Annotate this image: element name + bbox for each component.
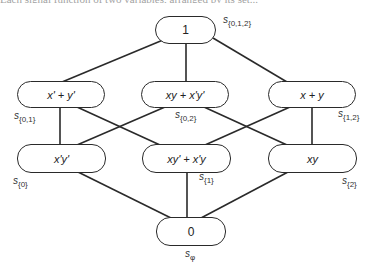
lattice-node-x-prime-y-prime: x'y' — [17, 144, 106, 173]
subset-label-02: s{0,2} — [175, 109, 196, 123]
node-text: xy — [307, 153, 318, 165]
lattice-node-x-plus-y: x + y — [268, 81, 356, 108]
subset-label-empty: sφ — [185, 248, 195, 262]
lattice-node-xy-plus-x-prime-y-prime: xy + x'y' — [141, 81, 229, 108]
node-text: 1 — [182, 23, 189, 37]
edge-top-m-right — [213, 38, 287, 82]
edge-top-m-left — [62, 40, 163, 82]
edge-b-left-bottom — [78, 172, 171, 218]
node-text: 0 — [188, 225, 195, 239]
subset-label-01: s{0,1} — [14, 110, 35, 124]
node-text: xy + x'y' — [166, 89, 205, 101]
node-text: x' + y' — [47, 89, 75, 101]
node-text: xy' + x'y — [167, 153, 206, 165]
node-text: x + y — [300, 89, 324, 101]
subset-label-2: s{2} — [342, 175, 357, 189]
subset-label-012: s{0,1,2} — [223, 14, 251, 28]
lattice-node-xy: xy — [268, 144, 357, 173]
subset-label-12: s{1,2} — [338, 108, 359, 122]
lattice-node-zero: 0 — [156, 217, 226, 246]
subset-label-0: s{0} — [13, 175, 28, 189]
node-text: x'y' — [54, 153, 69, 165]
subset-label-1: s{1} — [199, 171, 214, 185]
lattice-node-x-prime-plus-y-prime: x' + y' — [17, 81, 105, 108]
edge-b-right-bottom — [201, 172, 288, 218]
lattice-node-one: 1 — [155, 16, 216, 44]
lattice-node-xy-prime-plus-x-prime-y: xy' + x'y — [142, 144, 231, 173]
